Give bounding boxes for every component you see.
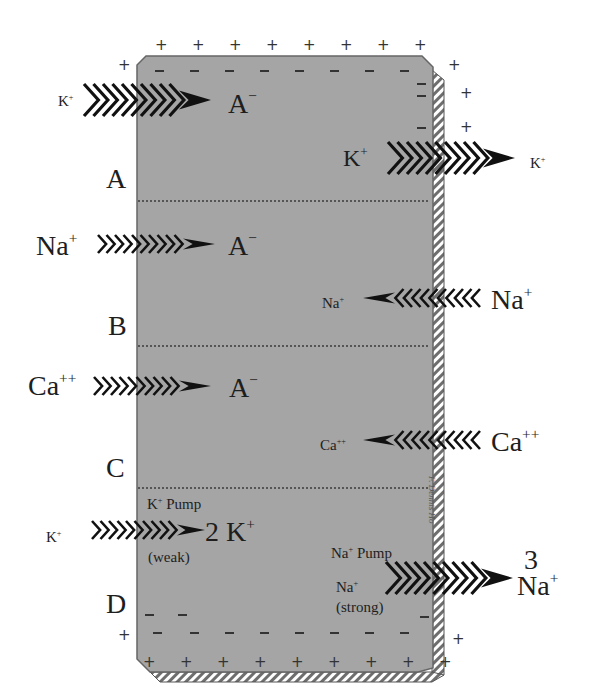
minus-charge xyxy=(330,632,339,634)
minus-charge xyxy=(260,70,269,72)
anion-a-c: A− xyxy=(229,374,258,402)
membrane-hatch-bottom xyxy=(150,672,444,682)
minus-charge xyxy=(417,95,426,97)
ion-ca-outside-c: Ca++ xyxy=(28,372,76,400)
minus-charge xyxy=(295,632,304,634)
plus-charge: + xyxy=(460,86,473,101)
minus-charge xyxy=(225,70,234,72)
cell-body xyxy=(137,56,433,672)
plus-charge: + xyxy=(118,628,131,643)
plus-charge: + xyxy=(402,655,415,670)
minus-charge xyxy=(365,632,374,634)
plus-charge: + xyxy=(266,38,279,53)
plus-charge: + xyxy=(291,655,304,670)
plus-charge: + xyxy=(143,655,156,670)
plus-charge: + xyxy=(254,655,267,670)
plus-charge: + xyxy=(192,38,205,53)
k-pump-strength: (weak) xyxy=(148,550,190,565)
ion-ca-inside-c: Ca++ xyxy=(320,438,346,453)
minus-charge xyxy=(330,70,339,72)
plus-charge: + xyxy=(229,38,242,53)
ion-ca-outside-right-c: Ca++ xyxy=(491,428,539,456)
artist-signature: F. Dennis Ho xyxy=(427,476,437,524)
plus-charge: + xyxy=(365,655,378,670)
ion-na-outside-right-b: Na+ xyxy=(491,286,532,314)
plus-charge: + xyxy=(377,38,390,53)
plus-charge: + xyxy=(460,120,473,135)
plus-charge: + xyxy=(452,632,465,647)
compartment-label-d: D xyxy=(106,590,126,618)
k-pump-label: K+ Pump xyxy=(147,497,201,512)
na-pump-result: Na+ xyxy=(517,572,558,600)
minus-charge xyxy=(178,614,187,616)
k-pump-result: 2 K+ xyxy=(205,518,255,546)
plus-charge: + xyxy=(414,38,427,53)
ion-na-inside-b: Na+ xyxy=(322,296,344,311)
minus-charge xyxy=(400,632,409,634)
plus-charge: + xyxy=(180,655,193,670)
na-pump-strength: (strong) xyxy=(336,600,384,615)
ion-k-outside-a: K+ xyxy=(58,94,74,109)
ion-k-inside-a: K+ xyxy=(343,146,368,170)
minus-charge xyxy=(365,70,374,72)
na-pump-inner-ion: Na+ xyxy=(336,580,358,595)
ion-k-outside-right-a: K+ xyxy=(530,156,546,171)
plus-charge: + xyxy=(448,58,461,73)
minus-charge xyxy=(400,70,409,72)
minus-charge xyxy=(417,127,426,129)
na-pump-label: Na+ Pump xyxy=(331,546,392,561)
minus-charge xyxy=(190,70,199,72)
anion-a-b: A− xyxy=(228,232,257,260)
plus-charge: + xyxy=(217,655,230,670)
plus-charge: + xyxy=(340,38,353,53)
minus-charge xyxy=(295,70,304,72)
diagram-canvas xyxy=(0,0,593,695)
minus-charge xyxy=(225,632,234,634)
compartment-label-b: B xyxy=(108,312,127,340)
compartment-label-a: A xyxy=(106,165,126,193)
ion-na-outside-b: Na+ xyxy=(36,232,77,260)
minus-charge xyxy=(153,632,162,634)
minus-charge xyxy=(155,70,164,72)
minus-charge xyxy=(420,616,429,618)
plus-charge: + xyxy=(303,38,316,53)
plus-charge: + xyxy=(118,58,131,73)
anion-a-a: A− xyxy=(228,90,257,118)
minus-charge xyxy=(260,632,269,634)
minus-charge xyxy=(190,632,199,634)
ion-k-outside-d: K+ xyxy=(46,530,62,545)
plus-charge: + xyxy=(439,655,452,670)
plus-charge: + xyxy=(328,655,341,670)
minus-charge xyxy=(145,614,154,616)
minus-charge xyxy=(417,83,426,85)
compartment-label-c: C xyxy=(106,454,125,482)
plus-charge: + xyxy=(155,38,168,53)
